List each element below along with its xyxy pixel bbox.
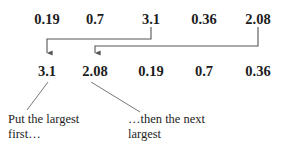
callout-put-largest-first: Put the largest first… [8,112,79,142]
next-largest-arrow-path [95,27,258,53]
put-largest-first-leader [27,82,48,110]
bottom-number-2: 0.19 [138,64,163,79]
top-number-1: 0.7 [86,12,104,27]
largest-arrow-path [47,27,151,53]
bottom-number-0: 3.1 [38,64,56,79]
bottom-number-3: 0.7 [195,64,213,79]
bottom-number-1: 2.08 [82,64,107,79]
ordering-diagram: 0.19 0.7 3.1 0.36 2.08 3.1 2.08 0.19 0.7… [0,0,296,155]
then-next-largest-leader [91,82,140,112]
top-number-0: 0.19 [34,12,59,27]
top-number-4: 2.08 [245,12,270,27]
callout-then-next-largest: …then the next largest [128,112,205,142]
bottom-number-4: 0.36 [245,64,270,79]
top-number-2: 3.1 [142,12,160,27]
top-number-3: 0.36 [191,12,216,27]
